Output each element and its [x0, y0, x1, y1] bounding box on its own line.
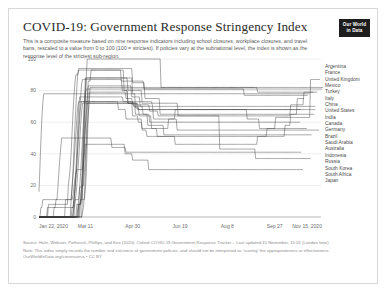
credit-link[interactable]: OurWorldInData.org/coronavirus • CC BY — [23, 254, 329, 260]
y-axis-tick-label: 0 — [33, 214, 36, 220]
y-axis-tick-label: 60 — [30, 119, 36, 125]
chart-footer: Source: Hale, Webster, Petherick, Philli… — [23, 240, 329, 259]
x-axis-tick-label: Nov 15, 2020 — [292, 223, 322, 229]
source-text: Source: Hale, Webster, Petherick, Philli… — [23, 240, 329, 246]
series-line[interactable] — [39, 97, 300, 217]
chart-legend[interactable]: ArgentinaFranceUnited KingdomMexicoTurke… — [325, 64, 387, 185]
x-axis-tick-label: Sep 27 — [267, 223, 283, 229]
y-axis-tick-label: 20 — [30, 182, 36, 188]
y-axis-tick-label: 100 — [28, 56, 37, 62]
y-axis-tick-label: 40 — [30, 151, 36, 157]
series-line[interactable] — [39, 80, 312, 217]
chart-card: COVID-19: Government Response Stringency… — [8, 8, 378, 284]
chart-svg: 020406080100Jan 22, 2020Mar 11Apr 30Jun … — [23, 55, 323, 233]
our-world-in-data-logo[interactable]: Our World in Data — [339, 19, 370, 37]
legend-item-japan[interactable]: Japan — [325, 178, 387, 184]
x-axis-tick-label: Jan 22, 2020 — [39, 223, 68, 229]
y-axis-tick-label: 80 — [30, 87, 36, 93]
note-text: Note: This index simply records the numb… — [23, 248, 329, 254]
page-title: COVID-19: Government Response Stringency… — [23, 19, 323, 35]
x-axis-tick-label: Aug 8 — [221, 223, 234, 229]
x-axis-tick-label: Apr 30 — [125, 223, 140, 229]
x-axis-tick-label: Jun 19 — [172, 223, 187, 229]
chart-header: COVID-19: Government Response Stringency… — [23, 19, 323, 60]
logo-line-2: in Data — [339, 28, 370, 34]
x-axis-tick-label: Mar 11 — [78, 223, 93, 229]
line-chart-plot[interactable]: 020406080100Jan 22, 2020Mar 11Apr 30Jun … — [23, 55, 323, 233]
